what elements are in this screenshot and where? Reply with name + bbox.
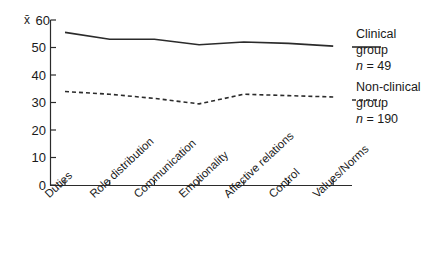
legend-entry-sample-size: n = 190 (356, 111, 421, 127)
y-axis-tick-label: 50 (18, 41, 46, 54)
y-axis-ticks (51, 20, 57, 185)
legend-n-symbol: n (356, 59, 363, 73)
series-line-clinical-group (65, 32, 333, 46)
legend-entry-name-line2: group (356, 95, 421, 111)
legend-entry: Non-clinicalgroupn = 190 (356, 79, 421, 127)
y-axis-tick-label: 0 (18, 179, 46, 192)
legend-entry: Clinicalgroupn = 49 (356, 26, 396, 74)
legend-entry-name-line2: group (356, 42, 396, 58)
y-axis-tick-label: 20 (18, 124, 46, 137)
legend-entry-sample-size: n = 49 (356, 58, 396, 74)
series-line-non-clinical-group (65, 92, 333, 104)
legend-entry-name-line1: Non-clinical (356, 79, 421, 95)
legend-n-symbol: n (356, 112, 363, 126)
y-axis-tick-label: 40 (18, 69, 46, 82)
legend-entry-name-line1: Clinical (356, 26, 396, 42)
y-axis-tick-label: 30 (18, 96, 46, 109)
y-axis-tick-label: 10 (18, 151, 46, 164)
y-axis-tick-label: 60 (22, 14, 50, 27)
